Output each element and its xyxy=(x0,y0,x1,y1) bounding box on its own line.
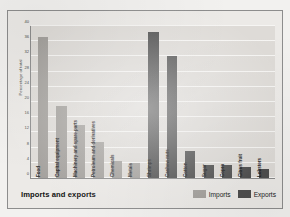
bar-category-label: Petroleum and derivatives xyxy=(91,121,96,177)
bar-category-label: Machinery and spare parts xyxy=(73,120,78,177)
bar-category-label: Shrimps xyxy=(147,159,152,177)
legend-swatch xyxy=(193,190,206,198)
legend-entry[interactable]: Exports xyxy=(238,190,276,198)
bar-category-label: Sugar xyxy=(202,164,207,177)
chart-figure: Percentage of total 0481216202428323640 … xyxy=(7,10,283,209)
plot-area: 0481216202428323640 FoodCapital equipmen… xyxy=(30,26,275,178)
bar-slot: Metals xyxy=(126,26,144,178)
chart-title: Imports and exports xyxy=(21,190,96,199)
figure-footer: Imports and exports ImportsExports xyxy=(8,181,284,209)
bar-slot: Lobsters xyxy=(255,26,273,178)
scanned-page: Percentage of total 0481216202428323640 … xyxy=(0,0,290,217)
bar-slot: Sugar xyxy=(200,26,218,178)
x-axis-line xyxy=(30,178,275,179)
y-tick-label: 24 xyxy=(24,79,29,84)
y-tick-label: 32 xyxy=(24,49,29,54)
bar-slot: Cotton xyxy=(181,26,199,178)
bar-slot: Cashew nuts xyxy=(163,26,181,178)
legend-label: Imports xyxy=(209,191,231,198)
y-tick-label: 20 xyxy=(24,95,29,100)
bar[interactable] xyxy=(38,37,48,178)
bar-slot: Shrimps xyxy=(144,26,162,178)
bar-category-label: Lobsters xyxy=(257,158,262,177)
y-tick-label: 40 xyxy=(24,19,29,24)
bar-slot: Petroleum and derivatives xyxy=(89,26,107,178)
bar-category-label: Copra xyxy=(220,164,225,177)
bar-category-label: Food xyxy=(36,166,41,177)
legend-entry[interactable]: Imports xyxy=(193,190,231,198)
bar-slot: Capital equipment xyxy=(52,26,70,178)
bar-category-label: Cashew nuts xyxy=(165,149,170,177)
bar-slot: Copra xyxy=(218,26,236,178)
bar-category-label: Cotton xyxy=(183,163,188,178)
bar[interactable] xyxy=(148,32,158,178)
legend-swatch xyxy=(238,190,251,198)
y-tick-label: 4 xyxy=(27,155,29,160)
y-axis-title: Percentage of total xyxy=(18,42,23,114)
legend: ImportsExports xyxy=(193,190,276,198)
y-tick-label: 36 xyxy=(24,34,29,39)
y-tick-label: 8 xyxy=(27,140,29,145)
bar-category-label: Citrus fruit xyxy=(238,154,243,177)
y-tick-label: 12 xyxy=(24,125,29,130)
legend-label: Exports xyxy=(254,191,276,198)
y-tick-label: 28 xyxy=(24,64,29,69)
y-tick-label: 0 xyxy=(27,171,29,176)
bar-slot: Citrus fruit xyxy=(236,26,254,178)
bar-group: FoodCapital equipmentMachinery and spare… xyxy=(31,26,275,178)
bar-category-label: Metals xyxy=(128,163,133,177)
bar-slot: Food xyxy=(34,26,52,178)
bar-category-label: Capital equipment xyxy=(55,138,60,177)
bar-slot: Machinery and spare parts xyxy=(71,26,89,178)
bar-category-label: Chemicals xyxy=(110,154,115,177)
bar-slot: Chemicals xyxy=(108,26,126,178)
chart-area: Percentage of total 0481216202428323640 … xyxy=(8,11,284,210)
y-tick-label: 16 xyxy=(24,110,29,115)
